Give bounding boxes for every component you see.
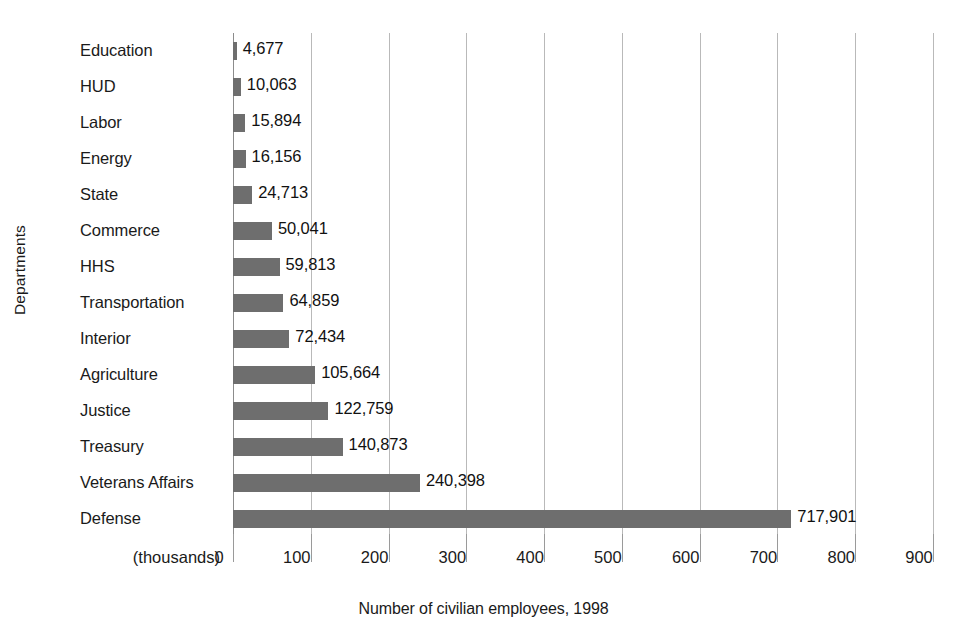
bar-value-label: 24,713 bbox=[258, 183, 308, 202]
x-tick-mark-600 bbox=[700, 534, 701, 562]
x-tick-label-500: 500 bbox=[594, 548, 622, 567]
bar-hhs bbox=[233, 258, 280, 276]
x-axis-title: Number of civilian employees, 1998 bbox=[0, 600, 967, 618]
x-tick-label-300: 300 bbox=[439, 548, 467, 567]
bar-row: 10,063 bbox=[233, 69, 933, 105]
bar-row: 140,873 bbox=[233, 429, 933, 465]
x-tick-mark-900 bbox=[933, 534, 934, 562]
bar-row: 717,901 bbox=[233, 501, 933, 537]
x-tick-mark-100 bbox=[311, 534, 312, 562]
bar-treasury bbox=[233, 438, 343, 456]
category-label-energy: Energy bbox=[80, 149, 230, 168]
bar-value-label: 59,813 bbox=[286, 255, 336, 274]
category-label-hud: HUD bbox=[80, 77, 230, 96]
bar-value-label: 4,677 bbox=[243, 39, 284, 58]
category-label-defense: Defense bbox=[80, 509, 230, 528]
bar-agriculture bbox=[233, 366, 315, 384]
bar-chart: Departments EducationHUDLaborEnergyState… bbox=[0, 0, 967, 644]
plot-area: 4,67710,06315,89416,15624,71350,04159,81… bbox=[233, 33, 933, 548]
bar-row: 50,041 bbox=[233, 213, 933, 249]
category-label-treasury: Treasury bbox=[80, 437, 230, 456]
x-tick-label-100: 100 bbox=[283, 548, 311, 567]
bar-labor bbox=[233, 114, 245, 132]
category-label-hhs: HHS bbox=[80, 257, 230, 276]
bar-value-label: 64,859 bbox=[289, 291, 339, 310]
bar-row: 240,398 bbox=[233, 465, 933, 501]
bar-row: 72,434 bbox=[233, 321, 933, 357]
bar-row: 4,677 bbox=[233, 33, 933, 69]
x-tick-mark-500 bbox=[622, 534, 623, 562]
x-tick-mark-300 bbox=[466, 534, 467, 562]
category-label-state: State bbox=[80, 185, 230, 204]
bar-value-label: 50,041 bbox=[278, 219, 328, 238]
category-label-agriculture: Agriculture bbox=[80, 365, 230, 384]
bar-commerce bbox=[233, 222, 272, 240]
bar-value-label: 72,434 bbox=[295, 327, 345, 346]
x-tick-label-900: 900 bbox=[905, 548, 933, 567]
bar-value-label: 717,901 bbox=[797, 507, 856, 526]
units-note: (thousands) bbox=[100, 548, 220, 567]
bar-education bbox=[233, 42, 237, 60]
category-label-veterans-affairs: Veterans Affairs bbox=[80, 473, 230, 492]
bar-value-label: 140,873 bbox=[349, 435, 408, 454]
bar-transportation bbox=[233, 294, 283, 312]
bar-defense bbox=[233, 510, 791, 528]
bar-row: 16,156 bbox=[233, 141, 933, 177]
x-tick-label-600: 600 bbox=[672, 548, 700, 567]
x-tick-label-700: 700 bbox=[750, 548, 778, 567]
x-axis-tick-group: 0100200300400500600700800900 bbox=[233, 548, 943, 572]
bar-interior bbox=[233, 330, 289, 348]
bar-row: 105,664 bbox=[233, 357, 933, 393]
x-tick-mark-0 bbox=[233, 534, 234, 562]
category-label-labor: Labor bbox=[80, 113, 230, 132]
bar-row: 122,759 bbox=[233, 393, 933, 429]
x-tick-label-400: 400 bbox=[516, 548, 544, 567]
x-tick-label-0: 0 bbox=[214, 548, 223, 567]
y-axis-title-text: Departments bbox=[11, 225, 29, 315]
bar-row: 24,713 bbox=[233, 177, 933, 213]
x-tick-mark-200 bbox=[389, 534, 390, 562]
bar-veterans-affairs bbox=[233, 474, 420, 492]
bar-row: 59,813 bbox=[233, 249, 933, 285]
bar-justice bbox=[233, 402, 328, 420]
x-tick-mark-400 bbox=[544, 534, 545, 562]
category-label-interior: Interior bbox=[80, 329, 230, 348]
category-label-transportation: Transportation bbox=[80, 293, 230, 312]
bar-value-label: 105,664 bbox=[321, 363, 380, 382]
category-label-commerce: Commerce bbox=[80, 221, 230, 240]
bar-value-label: 16,156 bbox=[252, 147, 302, 166]
bar-row: 15,894 bbox=[233, 105, 933, 141]
bar-hud bbox=[233, 78, 241, 96]
bar-energy bbox=[233, 150, 246, 168]
bar-value-label: 10,063 bbox=[247, 75, 297, 94]
x-tick-mark-800 bbox=[855, 534, 856, 562]
bar-value-label: 15,894 bbox=[251, 111, 301, 130]
bar-value-label: 122,759 bbox=[334, 399, 393, 418]
x-tick-label-800: 800 bbox=[827, 548, 855, 567]
bar-value-label: 240,398 bbox=[426, 471, 485, 490]
category-label-education: Education bbox=[80, 41, 230, 60]
y-axis-title: Departments bbox=[0, 0, 40, 540]
bar-state bbox=[233, 186, 252, 204]
gridline-900 bbox=[933, 33, 934, 548]
x-tick-mark-700 bbox=[777, 534, 778, 562]
x-tick-label-200: 200 bbox=[361, 548, 389, 567]
bar-row: 64,859 bbox=[233, 285, 933, 321]
category-label-justice: Justice bbox=[80, 401, 230, 420]
